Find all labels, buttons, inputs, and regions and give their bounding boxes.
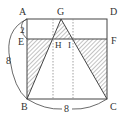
measure-AE: 2: [20, 25, 25, 35]
label-F: F: [111, 35, 117, 46]
label-D: D: [110, 6, 117, 17]
label-H: H: [55, 40, 62, 50]
label-G: G: [57, 6, 64, 17]
label-A: A: [19, 6, 27, 17]
label-C: C: [110, 101, 117, 112]
label-B: B: [21, 101, 28, 112]
geometry-figure: A D G E F H I B C 2 8 8: [0, 0, 126, 117]
label-I: I: [68, 40, 71, 50]
measure-BC: 8: [64, 103, 69, 114]
measure-AB: 8: [6, 55, 11, 66]
label-E: E: [18, 36, 24, 47]
